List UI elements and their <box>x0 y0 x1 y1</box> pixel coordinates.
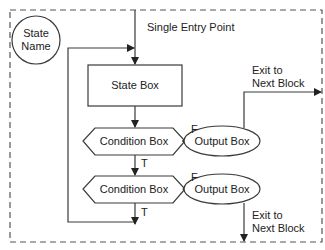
output-box-1-label: Output Box <box>184 135 260 148</box>
entry-point-label: Single Entry Point <box>147 21 234 34</box>
asm-block-diagram: State Name Single Entry Point State Box … <box>0 0 325 250</box>
condition-box-1-label: Condition Box <box>83 135 185 148</box>
exit-1-label: Exit to Next Block <box>252 64 305 90</box>
state-name-line1: State <box>12 27 60 40</box>
exit-2-line2: Next Block <box>252 222 305 235</box>
output-box-2-label: Output Box <box>184 183 260 196</box>
condition-box-2-label: Condition Box <box>83 183 185 196</box>
state-name-line2: Name <box>12 40 60 53</box>
exit-1-line2: Next Block <box>252 77 305 90</box>
condition-1-true-label: T <box>141 157 148 170</box>
exit-2-label: Exit to Next Block <box>252 209 305 235</box>
exit-1-line1: Exit to <box>252 64 305 77</box>
condition-2-true-label: T <box>141 206 148 219</box>
state-box-label: State Box <box>88 79 182 92</box>
exit-1-line <box>244 92 321 128</box>
state-name-label: State Name <box>12 27 60 53</box>
exit-2-line1: Exit to <box>252 209 305 222</box>
